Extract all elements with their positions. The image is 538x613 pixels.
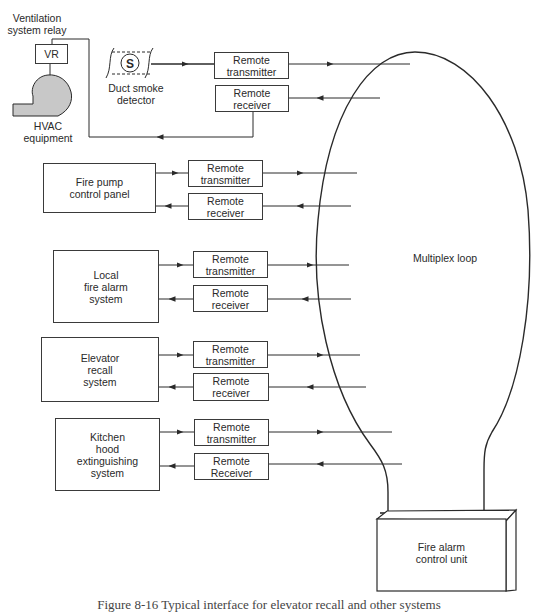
transmitter-label: Remote transmitter [207,421,257,445]
transmitter-label: Remote transmitter [206,343,256,367]
system-label: Elevator recall system [81,352,120,388]
kitchen-remote-transmitter: Remote transmitter [194,419,269,446]
system-label: Kitchen hood extinguishing system [77,431,138,479]
local-fire-alarm-remote-receiver: Remote receiver [193,285,268,312]
transmitter-label: Remote transmitter [206,253,256,277]
transmitter-label: Remote transmitter [201,162,251,186]
system-label: Local fire alarm system [84,269,128,305]
receiver-label: Remote Receiver [211,455,252,479]
fire-pump-control-panel: Fire pump control panel [43,163,156,213]
top-remote-transmitter: Remote transmitter [214,52,289,79]
elevator-remote-transmitter: Remote transmitter [193,341,268,368]
elevator-recall-system: Elevator recall system [41,337,159,402]
multiplex-loop-label: Multiplex loop [400,252,490,264]
figure-caption: Figure 8-16 Typical interface for elevat… [0,597,538,613]
kitchen-remote-receiver: Remote Receiver [194,453,269,480]
kitchen-hood-extinguishing-system: Kitchen hood extinguishing system [55,418,160,491]
transmitter-label: Remote transmitter [227,54,277,78]
ventilation-relay-label: Ventilation system relay [0,12,74,36]
elevator-remote-receiver: Remote receiver [193,373,269,401]
local-fire-alarm-system: Local fire alarm system [53,250,159,323]
fire-pump-remote-transmitter: Remote transmitter [188,160,263,187]
receiver-label: Remote receiver [207,195,244,219]
hvac-label: HVAC equipment [18,120,78,144]
system-label: Fire pump control panel [69,176,129,200]
top-remote-receiver: Remote receiver [215,85,289,112]
fire-alarm-control-unit-label: Fire alarm control unit [377,541,506,565]
vr-box-label: VR [44,48,59,60]
hvac-fan-icon [13,75,72,116]
smoke-detector-symbol: S [126,57,134,71]
fire-pump-remote-receiver: Remote receiver [188,193,263,220]
duct-smoke-detector-label: Duct smoke detector [104,82,168,106]
multiplex-loop-outline [316,52,529,512]
vr-box: VR [35,44,68,64]
receiver-label: Remote receiver [233,87,270,111]
receiver-label: Remote receiver [212,287,249,311]
receiver-label: Remote receiver [212,375,249,399]
local-fire-alarm-remote-transmitter: Remote transmitter [193,251,268,278]
